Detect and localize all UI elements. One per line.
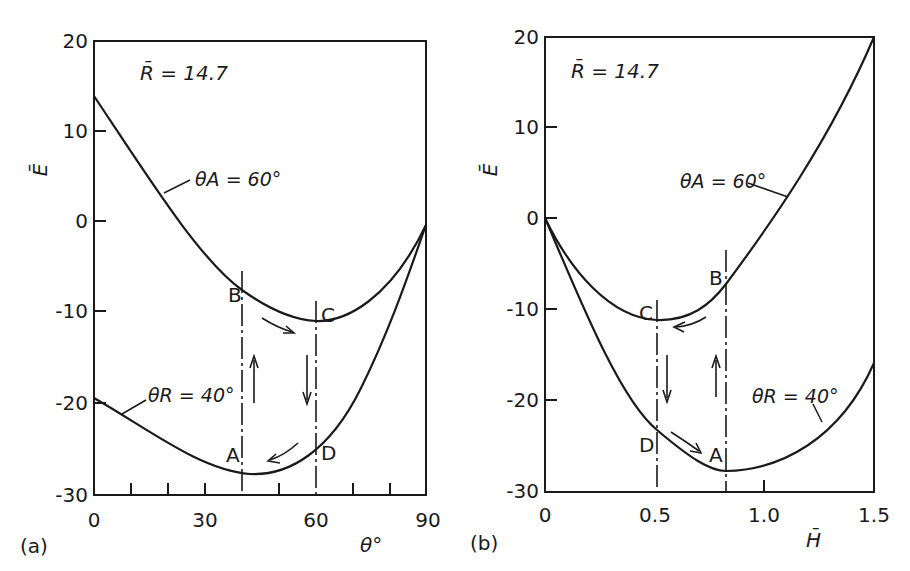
panel-a-annotation: R̄ = 14.7 <box>140 60 228 85</box>
panel-b-frame <box>545 37 874 492</box>
panel-a-curve-advancing <box>94 96 426 321</box>
panel-a-xtick-60: 60 <box>303 508 328 532</box>
panel-b-point-D: D <box>639 433 654 457</box>
panel-b-xtick-0-5: 0.5 <box>639 503 671 527</box>
panel-b-ytick-m20: -20 <box>506 388 539 412</box>
panel-a-x-ticks <box>131 483 390 495</box>
panel-b-annotation: R̄ = 14.7 <box>571 58 659 83</box>
panel-b: 20 10 0 -10 -20 -30 0 0.5 1.0 1.5 H̄ Ē (… <box>470 25 890 555</box>
panel-a-ylabel: Ē <box>28 163 52 176</box>
panel-a-point-A: A <box>226 443 240 467</box>
panel-a-y-ticks <box>94 131 106 403</box>
panel-b-label: (b) <box>470 531 498 555</box>
panel-a-leader-receding <box>122 400 146 414</box>
panel-b-point-A: A <box>709 443 723 467</box>
panel-b-curve-receding <box>545 218 874 471</box>
panel-b-label-receding: θR = 40° <box>752 385 839 407</box>
panel-b-point-C: C <box>639 301 653 325</box>
panel-a-ytick-m30: -30 <box>55 483 88 507</box>
panel-b-xtick-0: 0 <box>539 503 552 527</box>
panel-a-ytick-10: 10 <box>63 119 88 143</box>
panel-a-point-C: C <box>321 303 335 327</box>
panel-a-xtick-30: 30 <box>192 508 217 532</box>
panel-a-xtick-0: 0 <box>88 508 101 532</box>
panel-a-xlabel: θ° <box>360 533 382 557</box>
panel-b-ytick-m30: -30 <box>506 479 539 503</box>
panel-b-ylabel: Ē <box>478 163 502 176</box>
panel-b-xtick-1-0: 1.0 <box>748 503 780 527</box>
panel-b-ytick-20: 20 <box>514 25 539 49</box>
panel-a-frame <box>94 41 426 495</box>
panel-a-leader-advancing <box>164 180 190 193</box>
panel-a-point-D: D <box>321 441 336 465</box>
panel-b-ytick-0: 0 <box>526 206 539 230</box>
panel-a-label-receding: θR = 40° <box>148 384 235 406</box>
panel-a-ytick-m10: -10 <box>55 299 88 323</box>
panel-a-ytick-m20: -20 <box>55 391 88 415</box>
panel-a-ytick-20: 20 <box>63 29 88 53</box>
panel-a-curve-receding <box>94 225 426 474</box>
panel-a-label-advancing: θA = 60° <box>195 168 281 190</box>
panel-b-cycle-arrows <box>663 317 720 453</box>
panel-a-label: (a) <box>20 534 48 558</box>
panel-b-ytick-m10: -10 <box>506 297 539 321</box>
figure: 20 10 0 -10 -20 -30 0 30 60 90 θ° Ē (a) … <box>0 0 910 571</box>
panel-b-y-ticks <box>545 127 557 400</box>
panel-b-ytick-10: 10 <box>514 115 539 139</box>
panel-a-cycle-arrows <box>250 318 311 463</box>
panel-a-ytick-0: 0 <box>75 209 88 233</box>
panel-b-label-advancing: θA = 60° <box>680 170 766 192</box>
panel-b-point-B: B <box>709 266 723 290</box>
panel-a: 20 10 0 -10 -20 -30 0 30 60 90 θ° Ē (a) … <box>20 29 441 558</box>
panel-a-point-B: B <box>228 283 242 307</box>
panel-b-xtick-1-5: 1.5 <box>858 503 890 527</box>
panel-a-xtick-90: 90 <box>415 508 440 532</box>
panel-b-xlabel: H̄ <box>806 527 821 552</box>
